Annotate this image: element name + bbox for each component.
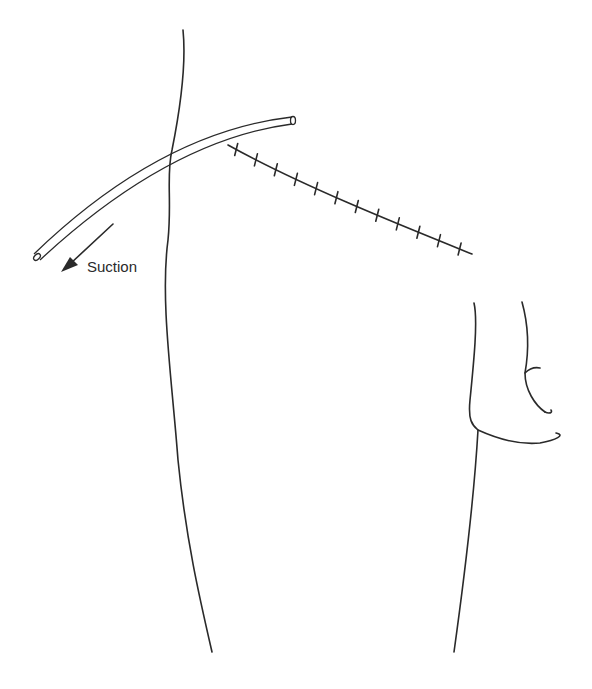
drain-tube-end-right: [291, 117, 296, 125]
diagram-canvas: Suction: [0, 0, 592, 689]
arm-outer-contour: [522, 302, 545, 412]
drain-tube: [32, 117, 295, 262]
arm-tip-contour: [545, 410, 552, 413]
suture-incision: [228, 143, 472, 255]
incision-line: [228, 145, 472, 254]
suction-label: Suction: [87, 258, 137, 275]
arm-inner-contour: [478, 430, 560, 443]
right-torso-contour: [454, 303, 478, 652]
armpit-fold: [525, 368, 540, 373]
left-body-contour: [165, 30, 212, 652]
